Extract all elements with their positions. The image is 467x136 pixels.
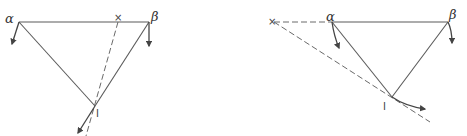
right-x-i-dashed-line: [274, 22, 430, 122]
right-beta-label: β: [448, 7, 457, 22]
right-beta-i-line: [392, 22, 448, 97]
left-i-label: I: [96, 108, 99, 119]
left-i-arrow: [78, 106, 95, 133]
right-x-label: ×: [268, 16, 276, 27]
left-beta-i-line: [95, 22, 149, 106]
left-alpha-i-line: [19, 22, 95, 106]
right-beta-arrow: [448, 22, 452, 43]
left-beta-label: β: [150, 9, 159, 24]
left-diagram: α β × I: [5, 9, 159, 136]
right-diagram: α β × I: [268, 7, 457, 122]
right-i-label: I: [383, 101, 386, 112]
left-x-i-dashed-line: [86, 22, 118, 136]
right-alpha-i-line: [332, 22, 392, 97]
left-alpha-label: α: [5, 11, 14, 26]
right-alpha-label: α: [326, 9, 335, 24]
right-i-arrow: [392, 97, 425, 109]
diagram-canvas: α β × I α β × I: [0, 0, 467, 136]
left-x-label: ×: [114, 12, 122, 23]
